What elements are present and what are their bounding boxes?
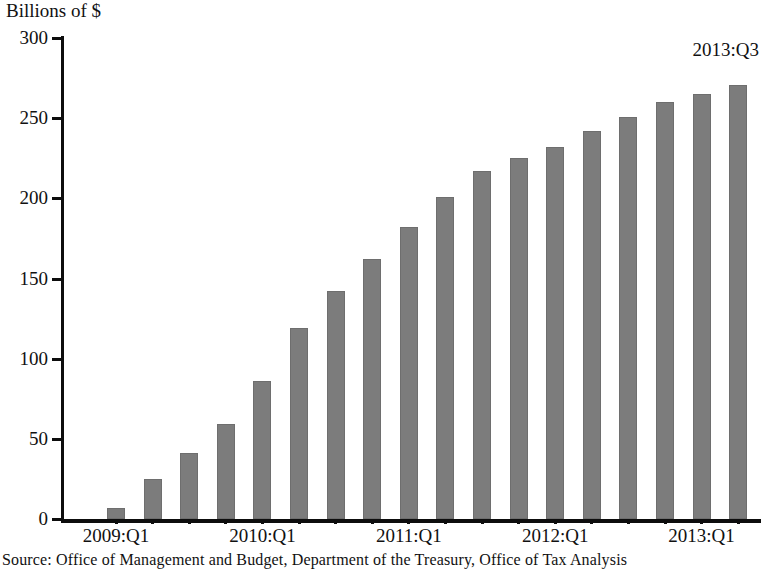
x-axis-line [61,519,761,523]
y-tick-mark [52,438,62,441]
bar [583,131,601,519]
last-point-annotation: 2013:Q3 [693,40,760,60]
x-tick-mark [517,519,520,524]
x-tick-mark [444,519,447,524]
y-tick-label: 300 [0,28,48,47]
y-tick-mark [52,278,62,281]
y-tick-label: 50 [0,429,48,448]
y-tick-label: 200 [0,188,48,207]
y-tick-mark [52,37,62,40]
x-tick-mark [481,519,484,524]
x-tick-mark [224,519,227,524]
x-tick-mark [261,519,264,524]
x-tick-mark [115,519,118,524]
bar [546,147,564,519]
x-tick-mark [371,519,374,524]
x-tick-mark [298,519,301,524]
bar [400,227,418,519]
x-tick-label: 2009:Q1 [83,525,150,546]
y-tick-label: 0 [0,509,48,528]
y-tick-mark [52,358,62,361]
bar [510,158,528,519]
bar [363,259,381,519]
y-tick-label-text: 100 [2,349,48,368]
bar [473,171,491,519]
x-tick-mark [188,519,191,524]
x-tick-mark [151,519,154,524]
y-tick-mark [52,197,62,200]
x-tick-mark [554,519,557,524]
bar [107,508,125,519]
x-tick-label: 2013:Q1 [668,525,735,546]
bar [729,85,747,520]
x-tick-mark [590,519,593,524]
bar [327,291,345,519]
y-tick-label-text: 300 [2,28,48,47]
y-tick-label: 100 [0,349,48,368]
y-tick-label-text: 250 [2,108,48,127]
bar [144,479,162,519]
y-axis-unit-label: Billions of $ [6,1,101,21]
x-tick-label: 2012:Q1 [522,525,589,546]
bar [290,328,308,519]
source-note: Source: Office of Management and Budget,… [2,551,764,569]
y-tick-label: 250 [0,108,48,127]
x-tick-label: 2011:Q1 [376,525,442,546]
y-tick-mark [52,518,62,521]
bars-layer [62,38,761,519]
y-tick-mark [52,117,62,120]
x-tick-mark [334,519,337,524]
x-tick-mark [700,519,703,524]
bar [693,94,711,519]
y-tick-label-text: 150 [2,269,48,288]
y-tick-label-text: 0 [2,509,48,528]
bar [656,102,674,519]
x-tick-mark [664,519,667,524]
bar [217,424,235,519]
x-tick-mark [627,519,630,524]
bar [180,453,198,519]
y-tick-label: 150 [0,269,48,288]
y-tick-label-text: 200 [2,188,48,207]
bar [436,197,454,519]
x-tick-mark [407,519,410,524]
x-tick-mark [737,519,740,524]
x-tick-label: 2010:Q1 [229,525,296,546]
bar [253,381,271,519]
y-tick-label-text: 50 [2,429,48,448]
bar [619,117,637,519]
